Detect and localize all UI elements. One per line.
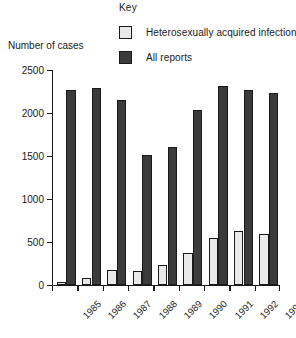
bar-group — [204, 70, 229, 285]
bar-group — [52, 70, 77, 285]
bar-1990-heterosexually-acquired — [183, 253, 192, 285]
x-axis-tick — [77, 285, 78, 291]
legend-title: Key — [119, 2, 137, 13]
bar-1993-heterosexually-acquired — [259, 234, 268, 285]
x-axis-tick-label: 1992 — [257, 298, 280, 321]
y-axis-tick-label: 1000 — [22, 194, 44, 205]
x-axis-tick — [204, 285, 205, 291]
bar-1990-all-reports — [193, 110, 202, 285]
y-axis-tick-label: 500 — [27, 237, 44, 248]
x-axis-tick-label: 1993 — [283, 298, 296, 321]
bar-1987-all-reports — [117, 100, 126, 285]
bar-1991-all-reports — [218, 86, 227, 285]
bar-1992-all-reports — [244, 90, 253, 285]
x-axis-tick — [279, 285, 280, 291]
x-axis-tick — [103, 285, 104, 291]
bar-group — [255, 70, 280, 285]
x-axis-tick-label: 1988 — [156, 298, 179, 321]
y-axis-title: Number of cases — [8, 40, 84, 51]
x-axis-tick-label: 1991 — [232, 298, 255, 321]
bar-group — [229, 70, 254, 285]
bar-group — [103, 70, 128, 285]
bar-group — [153, 70, 178, 285]
x-axis-line — [52, 285, 280, 286]
x-axis-tick-label: 1986 — [105, 298, 128, 321]
y-axis-tick-label: 2500 — [22, 65, 44, 76]
bar-1989-all-reports — [168, 147, 177, 285]
bar-1987-heterosexually-acquired — [107, 270, 116, 285]
x-axis-tick-label: 1987 — [131, 298, 154, 321]
bar-group — [128, 70, 153, 285]
bar-1993-all-reports — [269, 93, 278, 285]
legend-swatch-light-icon — [119, 26, 132, 39]
x-axis-tick — [52, 285, 53, 291]
legend-swatch-dark-icon — [119, 51, 132, 64]
bar-1989-heterosexually-acquired — [158, 265, 167, 285]
bar-1986-heterosexually-acquired — [82, 278, 91, 285]
legend-item-all-reports: All reports — [119, 51, 192, 64]
bar-group — [179, 70, 204, 285]
bar-chart-figure: Key Heterosexually acquired infections A… — [0, 0, 296, 338]
bar-group — [77, 70, 102, 285]
legend-item-heterosexually-acquired-infections: Heterosexually acquired infections — [119, 26, 296, 39]
bar-1985-heterosexually-acquired — [57, 282, 66, 285]
y-axis-tick-label: 0 — [38, 280, 44, 291]
x-axis-tick — [153, 285, 154, 291]
x-axis-tick — [255, 285, 256, 291]
x-axis-tick-label: 1989 — [181, 298, 204, 321]
y-axis-tick-label: 2000 — [22, 108, 44, 119]
legend-label-all-reports: All reports — [146, 52, 192, 63]
bar-1988-all-reports — [142, 155, 151, 285]
bar-1992-heterosexually-acquired — [234, 231, 243, 285]
bar-1988-heterosexually-acquired — [133, 271, 142, 285]
x-axis-tick-label: 1985 — [80, 298, 103, 321]
y-axis-tick-label: 1500 — [22, 151, 44, 162]
x-axis-tick — [229, 285, 230, 291]
x-axis-tick — [179, 285, 180, 291]
plot-area: 05001000150020002500 1985198619871988198… — [52, 70, 280, 285]
bar-1986-all-reports — [92, 88, 101, 285]
x-axis-tick — [128, 285, 129, 291]
bar-1991-heterosexually-acquired — [209, 238, 218, 285]
bar-1985-all-reports — [66, 90, 75, 285]
legend-label-heterosexually-acquired-infections: Heterosexually acquired infections — [146, 27, 296, 38]
x-axis-tick-label: 1990 — [207, 298, 230, 321]
